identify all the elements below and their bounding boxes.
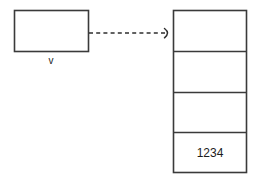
diagram-canvas: v 1234 [0, 0, 258, 182]
source-variable-label: v [49, 55, 54, 66]
source-variable-box[interactable] [15, 11, 89, 52]
diagram-svg: v 1234 [0, 0, 258, 182]
cell-value-3: 1234 [197, 146, 224, 160]
